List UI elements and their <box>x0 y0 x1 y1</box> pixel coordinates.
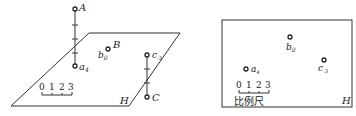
point-c-3 <box>145 53 149 57</box>
label-a4: a4 <box>79 61 89 73</box>
point-b <box>106 47 110 51</box>
scale-bar: 0 1 2 3 <box>39 82 74 95</box>
point-b0 <box>288 35 292 39</box>
scale-tick-3: 3 <box>68 82 74 92</box>
scale-caption: 比例尺 <box>234 95 264 107</box>
label-c: C <box>152 92 160 103</box>
scale-tick-2: 2 <box>256 80 262 90</box>
point-a4 <box>244 67 248 71</box>
plane-h-label: H <box>341 95 351 106</box>
scale-tick-0: 0 <box>236 80 242 90</box>
point-c <box>145 95 149 99</box>
scale-tick-2: 2 <box>59 82 65 92</box>
label-c-3: c-3 <box>318 63 328 74</box>
label-a: A <box>78 2 86 13</box>
scale-tick-1: 1 <box>49 82 55 92</box>
left-panel-perspective: H A a4 B b0 c-3 C 0 1 2 3 <box>11 2 180 106</box>
point-a <box>73 7 77 11</box>
scale-tick-1: 1 <box>246 80 252 90</box>
right-panel-plan: H b0 a4 c-3 0 1 2 3 比例尺 <box>222 20 352 107</box>
projection-diagram: H A a4 B b0 c-3 C 0 1 2 3 <box>0 0 356 116</box>
label-b0: b0 <box>98 50 108 61</box>
label-a4: a4 <box>251 64 260 75</box>
plane-h-rectangle <box>222 20 352 107</box>
point-c-3 <box>322 58 326 62</box>
label-c-3: c-3 <box>152 50 162 61</box>
plane-h-label: H <box>119 95 129 106</box>
label-b0: b0 <box>286 42 296 53</box>
scale-bar: 0 1 2 3 比例尺 <box>234 80 271 107</box>
point-a4 <box>73 64 77 68</box>
scale-tick-0: 0 <box>39 82 45 92</box>
scale-tick-3: 3 <box>265 80 271 90</box>
label-b: B <box>112 39 120 50</box>
